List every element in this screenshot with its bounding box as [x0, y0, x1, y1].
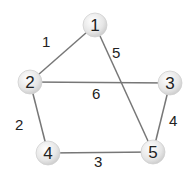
node-label: 2	[25, 73, 34, 92]
graph-canvas: 156243 12345	[0, 0, 196, 176]
edge-weight-label: 6	[92, 85, 100, 102]
node-label: 3	[165, 74, 174, 93]
edge-weight-label: 4	[169, 112, 177, 129]
edge-1-2	[30, 25, 95, 82]
node-label: 5	[148, 143, 157, 162]
edge-2-3	[30, 82, 170, 83]
edge-weight-label: 1	[42, 33, 50, 50]
graph-diagram: 156243 12345	[0, 0, 196, 176]
edge-weight-label: 2	[15, 116, 23, 133]
node-label: 1	[90, 16, 99, 35]
edge-weight-label: 5	[112, 44, 120, 61]
node-label: 4	[43, 144, 52, 163]
edge-1-5	[95, 25, 153, 152]
edge-weight-label: 3	[94, 153, 102, 170]
